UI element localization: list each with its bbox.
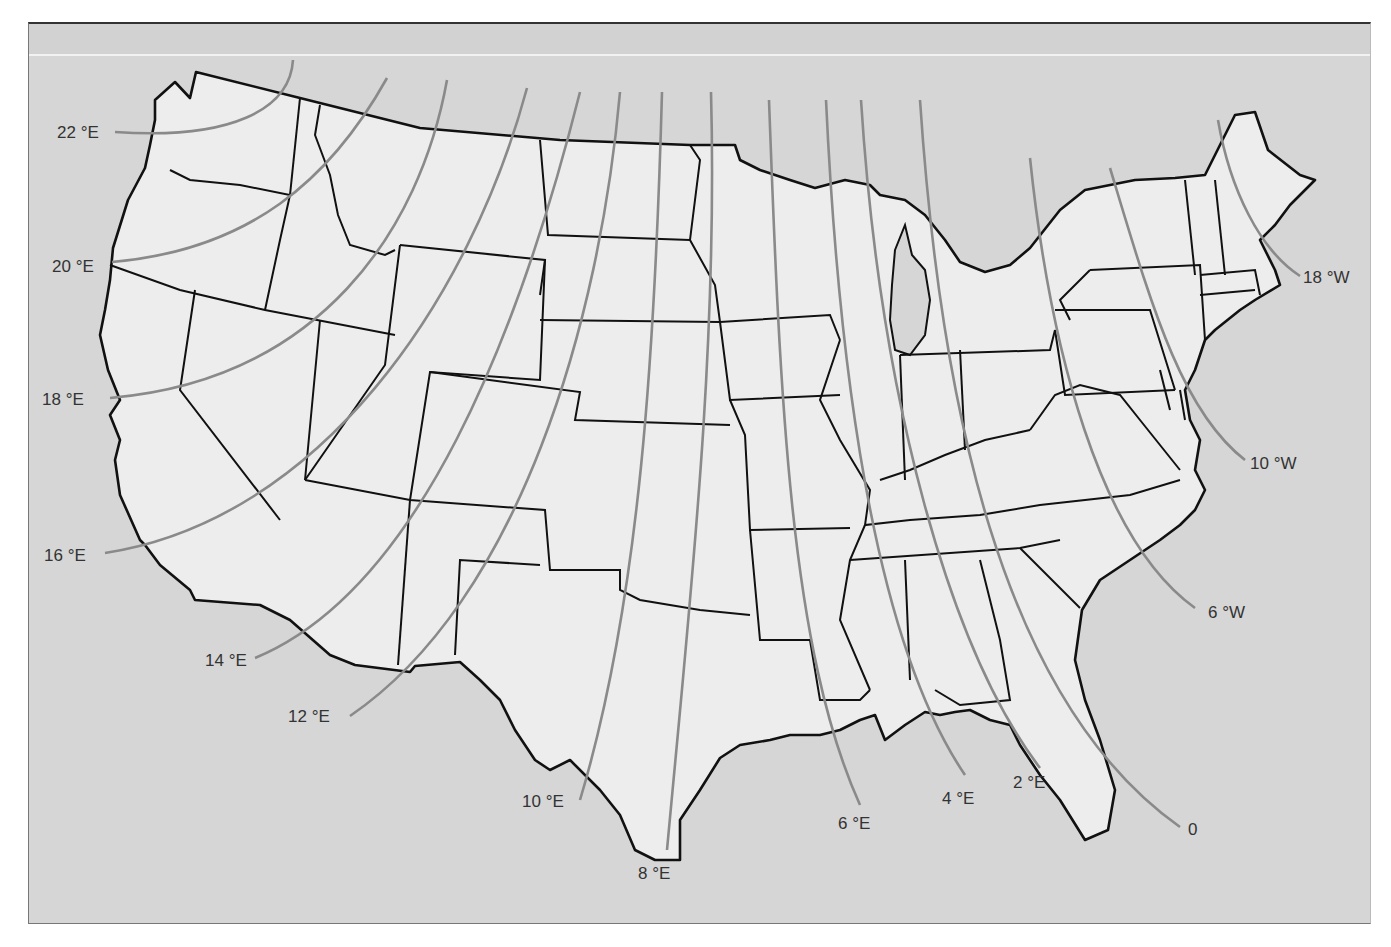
label-8E: 8 °E — [638, 864, 670, 883]
label-16E: 16 °E — [44, 546, 86, 565]
label-10E: 10 °E — [522, 792, 564, 811]
label-4E: 4 °E — [942, 789, 974, 808]
label-10W: 10 °W — [1250, 454, 1296, 473]
us-land — [100, 72, 1315, 860]
label-18E: 18 °E — [42, 390, 84, 409]
label-14E: 14 °E — [205, 651, 247, 670]
label-6E: 6 °E — [838, 814, 870, 833]
declination-map: 22 °E 20 °E 18 °E 16 °E 14 °E 12 °E 10 °… — [0, 0, 1391, 947]
label-6W: 6 °W — [1208, 603, 1245, 622]
label-22E: 22 °E — [57, 123, 99, 142]
label-20E: 20 °E — [52, 257, 94, 276]
label-12E: 12 °E — [288, 707, 330, 726]
label-18W: 18 °W — [1303, 268, 1349, 287]
label-2E: 2 °E — [1013, 773, 1045, 792]
label-0: 0 — [1188, 820, 1197, 839]
